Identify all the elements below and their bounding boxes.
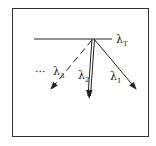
diagram-canvas: λT λ1 λ2 λ3 ··· bbox=[0, 0, 156, 146]
label-threshold: λT bbox=[116, 33, 128, 48]
label-ray2: λ2 bbox=[78, 69, 89, 84]
ellipsis: ··· bbox=[35, 66, 46, 79]
label-ray1: λ1 bbox=[110, 70, 121, 85]
ray2-arrowhead bbox=[86, 90, 93, 99]
label-ray3: λ3 bbox=[53, 65, 64, 80]
